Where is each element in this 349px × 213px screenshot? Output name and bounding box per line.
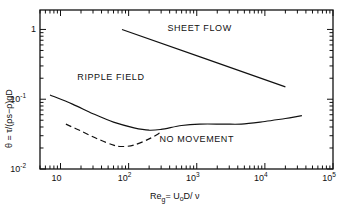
region-label: SHEET FLOW — [167, 23, 231, 33]
x-tick-label: 102 — [118, 171, 132, 183]
movement-threshold-line — [66, 124, 160, 146]
minor-ticks — [40, 10, 333, 169]
region-label: RIPPLE FIELD — [77, 72, 144, 82]
ripple-threshold-line — [50, 95, 302, 130]
y-tick-labels: 110-110-2 — [10, 24, 36, 174]
sheet-flow-boundary-line — [122, 30, 285, 87]
x-axis-label: Reg= UoD/ ν — [150, 191, 200, 204]
x-tick-label: 105 — [322, 171, 336, 183]
series-layer — [50, 30, 302, 147]
x-tick-labels: 10102103104105 — [51, 171, 336, 183]
x-tick-label: 104 — [254, 171, 268, 183]
plot-frame — [40, 10, 333, 169]
x-tick-label: 103 — [186, 171, 200, 183]
y-tick-label: 1 — [31, 24, 36, 34]
x-tick-label: 10 — [51, 173, 61, 183]
region-label: NO MOVEMENT — [159, 134, 234, 144]
regime-chart: 10102103104105 110-110-2 SHEET FLOWRIPPL… — [0, 0, 349, 213]
y-tick-label: 10-2 — [10, 162, 26, 174]
y-axis-label: θ = τ/(ρs−ρ)gD — [4, 89, 14, 148]
